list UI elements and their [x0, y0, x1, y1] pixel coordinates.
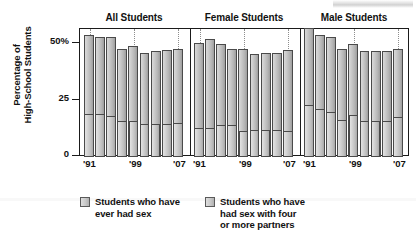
y-tick-label-25: 25: [58, 92, 69, 103]
legend-label-ever-had-sex-line-1: Students who have: [95, 196, 180, 208]
legend-swatch-icon-four-or-more-partners: [205, 197, 215, 207]
y-axis-title-line-1: Percentage of: [11, 26, 23, 123]
bar-group-female-students: [190, 29, 300, 157]
bar: [173, 49, 183, 157]
bar: [128, 46, 138, 157]
bar-segment-four-or-more-partners: [106, 116, 116, 157]
bar: [348, 44, 358, 157]
bar-group-male-students: [300, 29, 410, 157]
legend-label-ever-had-sex-line-2: ever had sex: [95, 208, 180, 220]
bar-segment-four-or-more-partners: [151, 124, 161, 157]
bar-segment-four-or-more-partners: [117, 121, 127, 157]
bar: [106, 37, 116, 157]
legend-label-four-or-more-partners: Students who have had sex with four or m…: [220, 196, 305, 231]
bar: [337, 49, 347, 157]
bar-segment-four-or-more-partners: [239, 131, 249, 157]
x-tick-label-all-91: '91: [83, 158, 96, 169]
scan-artifact: [333, 0, 413, 8]
x-tick-label-all-07: '07: [173, 158, 186, 169]
plot-area: [79, 28, 409, 156]
legend-label-four-or-more-partners-line-3: or more partners: [220, 219, 305, 231]
bar: [272, 53, 282, 157]
bar-segment-four-or-more-partners: [162, 124, 172, 157]
bar-segment-four-or-more-partners: [283, 131, 293, 157]
bar-segment-four-or-more-partners: [194, 128, 204, 157]
x-tick-label-female-99: '99: [239, 158, 252, 169]
bar: [393, 49, 403, 157]
bar: [194, 43, 204, 157]
y-tick-50: 50%: [56, 42, 79, 43]
bar: [95, 37, 105, 157]
bar: [382, 51, 392, 157]
legend-label-four-or-more-partners-line-2: had sex with four: [220, 208, 305, 220]
legend-swatch-icon-ever-had-sex: [80, 197, 90, 207]
bar: [326, 37, 336, 157]
y-tick-0: 0: [56, 155, 79, 156]
y-tick-line-25: [72, 99, 79, 100]
bar-segment-four-or-more-partners: [272, 130, 282, 157]
bar-segment-four-or-more-partners: [382, 121, 392, 157]
bar: [360, 51, 370, 157]
legend-label-ever-had-sex: Students who have ever had sex: [95, 196, 180, 219]
x-tick-label-female-07: '07: [283, 158, 296, 169]
legend-item-four-or-more-partners: Students who have had sex with four or m…: [205, 196, 355, 231]
y-tick-25: 25: [56, 99, 79, 100]
bar-segment-four-or-more-partners: [360, 121, 370, 157]
x-tick-label-male-07: '07: [393, 158, 406, 169]
bar: [250, 54, 260, 157]
bar-segment-four-or-more-partners: [371, 121, 381, 157]
legend-label-four-or-more-partners-line-1: Students who have: [220, 196, 305, 208]
bar-segment-four-or-more-partners: [393, 117, 403, 157]
x-tick-label-all-99: '99: [129, 158, 142, 169]
bar: [261, 53, 271, 157]
x-tick-label-female-91: '91: [193, 158, 206, 169]
y-tick-label-0: 0: [64, 148, 69, 159]
y-axis-title: Percentage of High-School Students: [5, 9, 39, 141]
bar: [151, 51, 161, 157]
bar-segment-four-or-more-partners: [140, 124, 150, 157]
bar-segment-four-or-more-partners: [326, 112, 336, 157]
y-axis-title-line-2: High-School Students: [22, 26, 34, 123]
bar: [84, 35, 94, 157]
bar: [304, 28, 314, 157]
bar: [216, 44, 226, 157]
y-tick-line-50: [72, 42, 79, 43]
bar-group-all-students: [80, 29, 190, 157]
chart-root: Percentage of High-School Students 50% 2…: [0, 0, 416, 242]
bar: [238, 49, 248, 157]
y-tick-label-50: 50%: [50, 35, 69, 46]
bar-segment-four-or-more-partners: [205, 128, 215, 157]
panel-title-all-students: All Students: [79, 12, 189, 23]
bar: [117, 49, 127, 157]
bar-segment-four-or-more-partners: [337, 120, 347, 157]
bar-segment-four-or-more-partners: [84, 114, 94, 157]
legend-item-ever-had-sex: Students who have ever had sex: [80, 196, 200, 219]
panel-title-female-students: Female Students: [189, 12, 299, 23]
bar-segment-four-or-more-partners: [315, 109, 325, 156]
panel-title-male-students: Male Students: [299, 12, 409, 23]
bar: [283, 50, 293, 157]
bar: [371, 51, 381, 157]
bar-segment-four-or-more-partners: [304, 105, 314, 157]
bar-segment-four-or-more-partners: [216, 125, 226, 157]
x-tick-label-male-99: '99: [349, 158, 362, 169]
bar: [315, 35, 325, 157]
bar: [140, 53, 150, 157]
bar-segment-four-or-more-partners: [173, 123, 183, 157]
bar: [162, 50, 172, 157]
bar: [205, 39, 215, 157]
bar-segment-four-or-more-partners: [261, 130, 271, 157]
bar-segment-four-or-more-partners: [129, 121, 139, 157]
bar-segment-four-or-more-partners: [250, 130, 260, 157]
x-tick-label-male-91: '91: [303, 158, 316, 169]
bar-segment-four-or-more-partners: [349, 115, 359, 157]
bar-segment-four-or-more-partners: [95, 114, 105, 157]
y-tick-line-0: [72, 155, 79, 156]
bar-segment-four-or-more-partners: [227, 125, 237, 157]
bar: [227, 49, 237, 157]
